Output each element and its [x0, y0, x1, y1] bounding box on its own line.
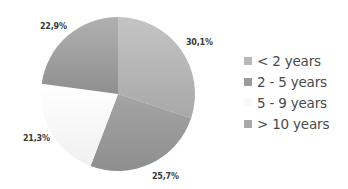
data-label-gt10: 22,9% — [40, 22, 67, 31]
legend-label: 2 - 5 years — [257, 74, 327, 90]
legend-swatch-2to5 — [244, 78, 252, 86]
data-label-lt2: 30,1% — [186, 38, 213, 47]
legend-swatch-lt2 — [244, 57, 252, 65]
legend-swatch-gt10 — [244, 120, 252, 128]
data-label-5to9: 21,3% — [23, 134, 50, 143]
legend-item-gt10: > 10 years — [244, 113, 329, 134]
legend-swatch-5to9 — [244, 99, 252, 107]
legend-label: 5 - 9 years — [257, 95, 327, 111]
legend: < 2 years 2 - 5 years 5 - 9 years > 10 y… — [244, 50, 329, 134]
data-label-2to5: 25,7% — [152, 172, 179, 181]
legend-label: < 2 years — [257, 53, 321, 69]
legend-label: > 10 years — [257, 116, 329, 132]
legend-item-2to5: 2 - 5 years — [244, 71, 329, 92]
legend-item-lt2: < 2 years — [244, 50, 329, 71]
legend-item-5to9: 5 - 9 years — [244, 92, 329, 113]
